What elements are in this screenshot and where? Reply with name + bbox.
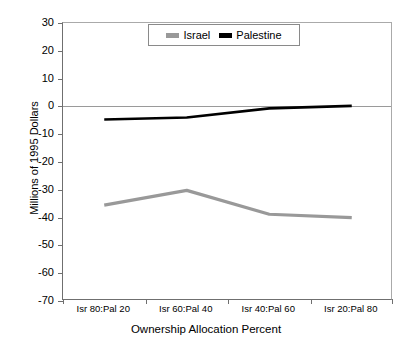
legend-label-israel: Israel (183, 30, 210, 41)
series-line-israel (104, 190, 352, 217)
y-tick-label: 0 (14, 100, 54, 111)
y-tick-label: -10 (14, 128, 54, 139)
x-tick-label: Isr 20:Pal 80 (291, 303, 411, 314)
y-tick-label: -20 (14, 156, 54, 167)
y-tick-label: 30 (14, 17, 54, 28)
y-tick-label: -60 (14, 267, 54, 278)
legend-item-palestine[interactable]: Palestine (219, 30, 281, 41)
chart-legend: Israel Palestine (148, 24, 300, 46)
line-chart: Millions of 1995 Dollars 3020100-10-20-3… (0, 0, 412, 351)
y-tick-label: -40 (14, 212, 54, 223)
plot-area (62, 22, 392, 300)
legend-label-palestine: Palestine (236, 30, 281, 41)
series-lines (63, 23, 393, 301)
series-line-palestine (104, 106, 352, 120)
y-tick-label: -50 (14, 239, 54, 250)
legend-swatch-palestine (219, 33, 232, 38)
x-axis-title: Ownership Allocation Percent (0, 323, 412, 335)
legend-swatch-israel (166, 33, 179, 38)
y-tick-label: 20 (14, 45, 54, 56)
y-tick-label: -30 (14, 184, 54, 195)
legend-item-israel[interactable]: Israel (166, 30, 210, 41)
y-tick-label: 10 (14, 73, 54, 84)
